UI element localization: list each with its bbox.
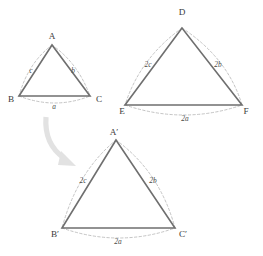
vertex-label-e: E [119, 106, 125, 116]
side-label-aprime-2c: 2c [80, 176, 88, 185]
geometry-figure: A B C c b a D E F 2c 2b [0, 0, 263, 256]
side-label-def-2c: 2c [145, 60, 153, 69]
triangle-def-group: D E F 2c 2b 2a [119, 7, 248, 123]
arrow-head-icon [58, 151, 76, 166]
triangle-abc-group: A B C c b a [8, 31, 102, 111]
side-label-abc-b: b [71, 66, 75, 75]
transformation-arrow [46, 117, 76, 166]
vertex-label-b-prime: B′ [51, 229, 59, 239]
vertex-label-f: F [243, 106, 248, 116]
side-label-abc-a: a [52, 102, 56, 111]
vertex-label-c-prime: C′ [179, 229, 187, 239]
vertex-label-b: B [8, 94, 14, 104]
vertex-label-c: C [96, 94, 102, 104]
vertex-label-d: D [179, 7, 186, 17]
vertex-label-a: A [49, 31, 56, 41]
side-label-def-2b: 2b [214, 60, 222, 69]
triangle-a-prime-group: A′ B′ C′ 2c 2b 2a [51, 127, 187, 246]
side-label-aprime-2b: 2b [149, 176, 157, 185]
side-label-aprime-2a: 2a [114, 237, 122, 246]
side-label-def-2a: 2a [181, 114, 189, 123]
triangle-def-outline [125, 28, 242, 105]
figure-canvas: A B C c b a D E F 2c 2b [0, 0, 263, 256]
vertex-label-a-prime: A′ [110, 127, 119, 137]
